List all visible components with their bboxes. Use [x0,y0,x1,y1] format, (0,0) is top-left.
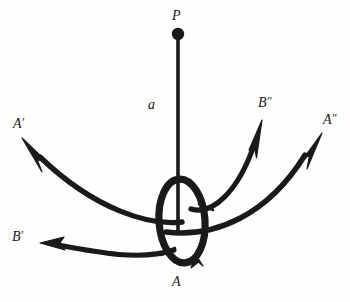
label-vector-a-prime-text: A [13,116,22,131]
label-point-p-text: P [172,8,181,23]
label-vector-b-prime-mark: ′ [21,228,24,242]
label-vector-a-double-prime: A″ [323,112,337,127]
curve-b-prime [40,237,174,255]
label-vector-a-prime-mark: ′ [22,115,25,129]
label-loop-a: A [172,275,181,289]
label-loop-a-text: A [172,274,181,289]
label-point-p: P [172,9,181,23]
point-p-dot [172,28,184,40]
label-segment-a: a [148,98,155,112]
diagram-svg [0,0,350,302]
label-vector-a-prime: A′ [13,116,25,131]
label-vector-b-double-prime-mark: ″ [267,94,273,108]
label-vector-b-prime: B′ [12,229,24,244]
curve-a-double-prime-path [166,155,305,233]
label-vector-a-double-prime-text: A [323,112,332,127]
label-vector-b-prime-text: B [12,229,21,244]
label-vector-b-double-prime: B″ [258,95,272,110]
label-vector-b-double-prime-text: B [258,95,267,110]
label-segment-a-text: a [148,97,155,112]
curve-a-double-prime-arrowhead [303,133,322,169]
figure-canvas: P a A A′ A″ B′ B″ [0,0,350,302]
label-vector-a-double-prime-mark: ″ [332,111,338,125]
curve-b-prime-path [58,245,174,255]
